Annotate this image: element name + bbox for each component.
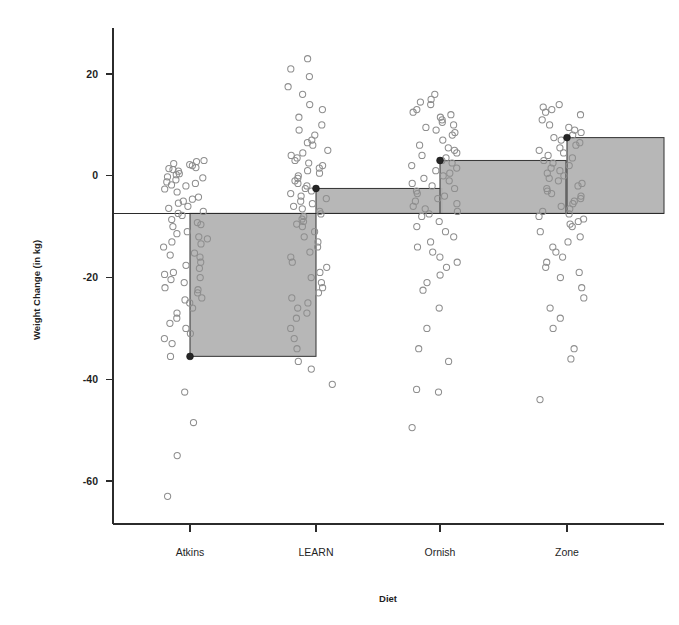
data-point <box>451 122 457 128</box>
bar-atkins <box>190 213 316 356</box>
data-point <box>550 325 556 331</box>
data-point <box>445 145 451 151</box>
data-point <box>296 127 302 133</box>
data-point <box>421 175 427 181</box>
x-tick-label-atkins: Atkins <box>176 546 205 558</box>
data-point <box>557 274 563 280</box>
y-tick-label: -20 <box>83 271 98 283</box>
data-point <box>166 166 172 172</box>
data-point <box>306 73 312 79</box>
data-point <box>549 107 555 113</box>
data-point <box>183 325 189 331</box>
data-point <box>424 325 430 331</box>
data-point <box>553 249 559 255</box>
data-point <box>547 122 553 128</box>
data-point <box>448 112 454 118</box>
data-point <box>317 269 323 275</box>
data-point <box>539 117 545 123</box>
data-point <box>433 127 439 133</box>
data-point <box>440 137 446 143</box>
data-point <box>329 381 335 387</box>
data-point <box>409 163 415 169</box>
data-point <box>417 99 423 105</box>
data-point <box>162 271 168 277</box>
data-point <box>416 346 422 352</box>
data-point <box>409 425 415 431</box>
data-point <box>417 142 423 148</box>
data-point <box>566 124 572 130</box>
data-point <box>161 244 167 250</box>
data-point <box>414 386 420 392</box>
data-point <box>568 356 574 362</box>
data-point <box>537 397 543 403</box>
data-point <box>420 287 426 293</box>
data-point <box>581 295 587 301</box>
data-point <box>201 157 207 163</box>
data-point <box>183 183 189 189</box>
data-point <box>295 358 301 364</box>
data-point <box>305 56 311 62</box>
data-point <box>325 147 331 153</box>
data-point <box>536 147 542 153</box>
data-point <box>168 182 174 188</box>
data-point <box>170 224 176 230</box>
data-point <box>430 249 436 255</box>
chart-figure: 200-20-40-60 AtkinsLEARNOrnishZone Diet … <box>0 0 679 625</box>
data-point <box>414 224 420 230</box>
data-point <box>443 264 449 270</box>
data-point <box>424 280 430 286</box>
data-point <box>579 285 585 291</box>
data-point <box>451 234 457 240</box>
data-point <box>436 305 442 311</box>
data-point <box>181 280 187 286</box>
data-point <box>414 244 420 250</box>
y-tick-label: -40 <box>83 373 98 385</box>
data-point <box>419 213 425 219</box>
x-tick-label-learn: LEARN <box>298 546 333 558</box>
data-point <box>423 124 429 130</box>
data-point <box>309 201 315 207</box>
data-point <box>162 186 168 192</box>
data-point <box>300 91 306 97</box>
data-point <box>576 269 582 275</box>
data-point <box>543 109 549 115</box>
data-point <box>575 218 581 224</box>
y-tick-label: -60 <box>83 475 98 487</box>
data-point <box>174 189 180 195</box>
data-point <box>536 213 542 219</box>
data-point <box>169 341 175 347</box>
data-point <box>454 259 460 265</box>
data-point <box>436 218 442 224</box>
data-point <box>291 203 297 209</box>
data-point <box>174 231 180 237</box>
data-point <box>419 152 425 158</box>
data-point <box>193 158 199 164</box>
data-point <box>308 366 314 372</box>
data-point <box>578 129 584 135</box>
data-point <box>167 353 173 359</box>
data-point <box>167 252 173 258</box>
data-point <box>183 262 189 268</box>
data-point <box>174 453 180 459</box>
data-point <box>300 150 306 156</box>
mean-marker-learn <box>313 185 320 192</box>
x-axis-ticks: AtkinsLEARNOrnishZone <box>176 524 579 558</box>
data-point <box>428 239 434 245</box>
data-point <box>437 254 443 260</box>
data-point <box>192 180 198 186</box>
y-tick-label: 20 <box>86 68 98 80</box>
data-point <box>184 229 190 235</box>
scatter-bar-plot: 200-20-40-60 AtkinsLEARNOrnishZone Diet … <box>0 0 679 625</box>
y-tick-label: 0 <box>92 169 98 181</box>
data-point <box>189 196 195 202</box>
data-point <box>577 234 583 240</box>
y-axis-title: Weight Change (in kg) <box>31 240 42 340</box>
data-point <box>577 112 583 118</box>
data-point <box>319 122 325 128</box>
data-point <box>288 191 294 197</box>
data-point <box>185 203 191 209</box>
data-point <box>537 229 543 235</box>
data-point <box>565 239 571 245</box>
x-tick-label-ornish: Ornish <box>425 546 456 558</box>
data-point <box>556 101 562 107</box>
